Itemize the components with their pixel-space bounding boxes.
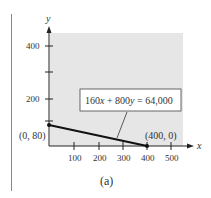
point-label-400-0: (400, 0)	[145, 130, 177, 142]
equation-label: 160x + 800y = 64,000	[85, 95, 173, 106]
point-400-0	[145, 144, 149, 148]
y-axis-label: y	[45, 13, 51, 24]
point-label-0-80: (0, 80)	[19, 130, 46, 142]
figure-caption: (a)	[100, 174, 113, 189]
point-0-80	[47, 123, 51, 127]
x-tick-label-500: 500	[165, 153, 179, 163]
y-tick-label-200: 200	[26, 94, 40, 104]
x-tick-label-100: 100	[68, 153, 82, 163]
x-axis-label: x	[196, 140, 202, 151]
x-axis-arrow-icon	[187, 144, 194, 149]
y-axis-arrow-icon	[47, 26, 52, 33]
x-tick-label-300: 300	[117, 153, 131, 163]
y-tick-label-400: 400	[26, 41, 40, 51]
x-tick-label-400: 400	[141, 153, 155, 163]
chart-canvas: y x 400 200 100 200 300 400 500 (0, 80) …	[0, 0, 211, 198]
x-tick-label-200: 200	[93, 153, 107, 163]
